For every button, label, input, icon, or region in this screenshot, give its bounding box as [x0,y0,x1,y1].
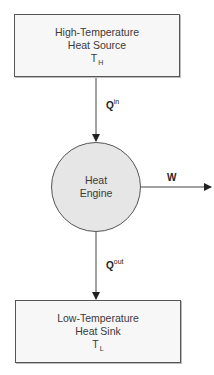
heat-source-line1: High-Temperature [55,26,139,39]
heat-source-box: High-Temperature Heat Source TH [14,14,180,77]
heat-source-line2: Heat Source [68,39,126,52]
heat-sink-temperature: TL [92,338,103,352]
q-out-label: Qout [106,259,124,271]
heat-engine-line2: Engine [80,187,113,200]
heat-engine-line1: Heat [85,174,107,187]
heat-sink-line1: Low-Temperature [57,312,139,325]
heat-sink-box: Low-Temperature Heat Sink TL [15,300,181,363]
heat-sink-line2: Heat Sink [75,325,121,338]
work-label: W [167,172,176,183]
q-in-label: Qin [106,99,119,111]
heat-source-temperature: TH [91,52,103,66]
heat-engine-circle: Heat Engine [51,142,141,232]
